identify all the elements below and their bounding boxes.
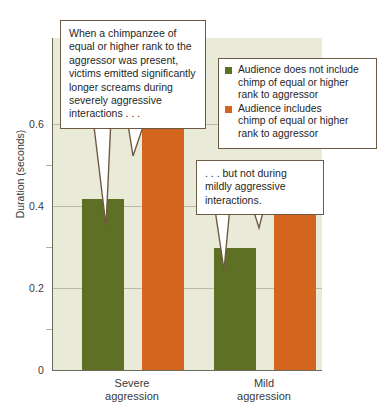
callout-mild-text: . . . but not during mildly aggressive i… [205,167,315,207]
legend-item-with-audience: Audience includes chimp of equal or high… [225,103,370,141]
legend-swatch-orange-icon [225,106,232,113]
x-axis-line [52,370,322,371]
x-tick-mild-line2: aggression [214,390,314,403]
x-tick-mild-line1: Mild [214,377,314,390]
legend-no-audience-line1: Audience does not include [238,64,359,75]
chart-figure: 0.6 0.4 0.2 0 Duration (seconds) Severe … [0,0,385,415]
x-tick-severe-line2: aggression [82,390,182,403]
callout-severe-aggression: When a chimpanzee of equal or higher ran… [60,20,206,129]
legend-with-audience-line1: Audience includes [238,103,322,114]
bar-mild-with-audience [274,199,316,370]
y-tick-label-0: 0 [0,364,44,376]
legend-label-with-audience: Audience includes chimp of equal or high… [238,103,348,141]
bar-severe-with-audience [142,99,184,370]
callout-mild-aggression: . . . but not during mildly aggressive i… [196,160,324,215]
legend-no-audience-line3: rank to aggressor [238,89,318,100]
y-tick-label-0.2: 0.2 [0,282,44,294]
callout-severe-text: When a chimpanzee of equal or higher ran… [69,27,197,121]
x-tick-severe-line1: Severe [82,377,182,390]
legend-with-audience-line3: rank to aggressor [238,128,318,139]
chart-legend: Audience does not include chimp of equal… [218,58,377,149]
bar-mild-no-audience [214,248,256,370]
legend-item-no-audience: Audience does not include chimp of equal… [225,64,370,102]
legend-label-no-audience: Audience does not include chimp of equal… [238,64,359,102]
legend-swatch-green-icon [225,67,232,74]
x-tick-label-mild: Mild aggression [214,377,314,403]
y-axis-title: Duration (seconds) [14,94,26,254]
x-tick-label-severe: Severe aggression [82,377,182,403]
legend-with-audience-line2: chimp of equal or higher [238,115,348,126]
bar-severe-no-audience [82,199,124,370]
legend-no-audience-line2: chimp of equal or higher [238,77,348,88]
